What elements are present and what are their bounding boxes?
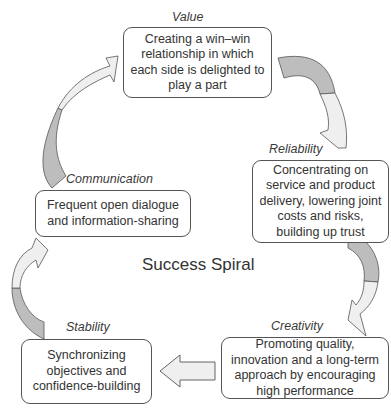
- curved-arrow-reliability-to-creativity: [348, 230, 379, 336]
- stage-box-reliability: Concentrating on service and product del…: [252, 160, 389, 243]
- curved-arrow-communication-to-value: [43, 56, 118, 188]
- stage-box-stability: Synchronizing objectives and confidence-…: [21, 339, 152, 404]
- stage-label-stability: Stability: [66, 320, 110, 334]
- curved-arrow-stability-to-communication: [12, 238, 48, 339]
- straight-arrow-creativity-to-stability: [160, 355, 215, 387]
- stage-box-creativity: Promoting quality, innovation and a long…: [221, 337, 389, 399]
- stage-label-value: Value: [172, 10, 204, 24]
- stage-box-communication: Frequent open dialogue and information-s…: [35, 190, 191, 237]
- curved-arrow-value-to-reliability: [278, 56, 347, 148]
- stage-label-communication: Communication: [66, 172, 153, 186]
- stage-label-creativity: Creativity: [271, 319, 323, 333]
- diagram-title: Success Spiral: [142, 255, 254, 275]
- stage-label-reliability: Reliability: [269, 142, 323, 156]
- stage-box-value: Creating a win–win relationship in which…: [123, 27, 272, 98]
